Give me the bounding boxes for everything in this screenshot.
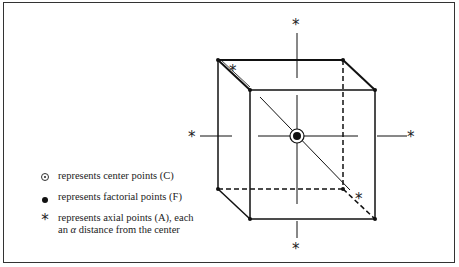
- center-point-icon: [41, 173, 49, 181]
- axial-point-icon: *: [41, 211, 49, 229]
- svg-text:*: *: [188, 128, 196, 146]
- svg-text:*: *: [407, 128, 415, 146]
- svg-text:*: *: [292, 16, 300, 34]
- svg-text:*: *: [292, 240, 300, 258]
- svg-text:*: *: [355, 190, 363, 208]
- legend-center: represents center points (C): [38, 170, 194, 182]
- axis-depth: [260, 97, 350, 190]
- legend-factorial: represents factorial points (F): [38, 191, 194, 203]
- factorial-point-icon: [42, 197, 48, 203]
- legend: represents center points (C) represents …: [38, 170, 194, 245]
- edge-connect-bl: [218, 189, 250, 219]
- edge-connect-tr: [343, 60, 375, 90]
- svg-text:*: *: [229, 62, 237, 80]
- legend-axial: * represents axial points (A), each an α…: [38, 212, 194, 236]
